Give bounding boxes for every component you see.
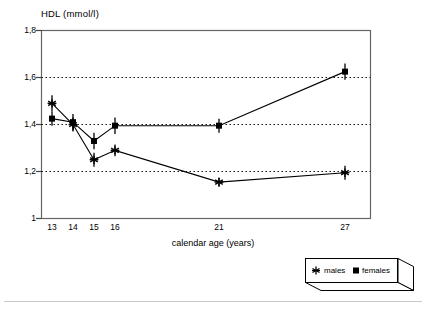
legend-label-males: males	[324, 266, 345, 275]
y-tick-marks	[36, 31, 42, 219]
legend-box-3d	[305, 258, 417, 300]
data-point	[49, 112, 55, 126]
square-marker-icon	[49, 116, 55, 122]
chart-legend[interactable]: males females	[305, 258, 417, 300]
square-marker-icon	[112, 123, 118, 129]
data-point	[112, 117, 118, 133]
square-marker-icon	[70, 119, 76, 125]
series-layer	[48, 63, 350, 186]
asterisk-marker-icon	[215, 178, 224, 186]
square-marker-icon	[342, 69, 348, 75]
asterisk-marker-icon	[90, 156, 99, 164]
series-females	[49, 63, 348, 149]
legend-marker-females	[353, 268, 359, 274]
data-point	[341, 166, 350, 180]
data-point	[48, 95, 57, 111]
data-point	[215, 177, 224, 186]
data-point	[216, 119, 222, 133]
asterisk-marker-icon	[341, 168, 350, 176]
chart-figure: HDL (mmol/l) 1,8 1,6 1,4 1,2 1 13 14 15 …	[0, 0, 426, 311]
legend-label-females: females	[362, 266, 390, 275]
square-marker-icon	[216, 123, 222, 129]
data-point	[91, 133, 97, 149]
footer-divider	[4, 301, 422, 302]
square-marker-icon	[91, 138, 97, 144]
data-point	[111, 144, 120, 156]
asterisk-marker-icon	[111, 146, 120, 154]
